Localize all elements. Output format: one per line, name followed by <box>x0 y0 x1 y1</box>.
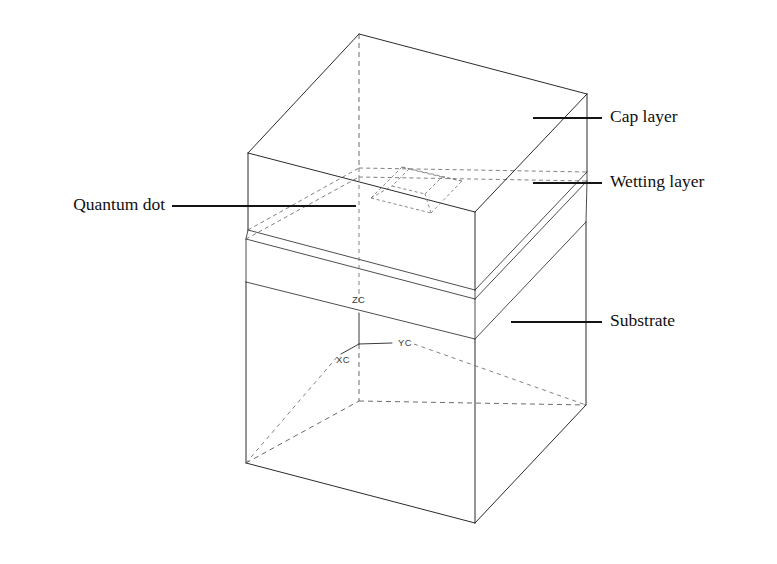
callout-labels: Cap layer Wetting layer Substrate Quantu… <box>73 106 704 330</box>
quantum-dot-shape <box>371 167 462 213</box>
axis-label-z: ZC <box>352 294 365 305</box>
label-wetting-layer: Wetting layer <box>610 171 704 191</box>
label-cap-layer: Cap layer <box>610 106 678 126</box>
coordinate-axes: ZC YC XC <box>246 177 586 463</box>
heterostructure-illustration: ZC YC XC Cap layer Wetting layer Substra… <box>0 0 777 564</box>
diagram-canvas: ZC YC XC Cap layer Wetting layer Substra… <box>0 0 777 564</box>
substrate-block <box>246 222 586 523</box>
label-substrate: Substrate <box>610 310 675 330</box>
cap-layer-block <box>248 34 587 290</box>
leader-lines <box>172 118 602 322</box>
axis-label-x: XC <box>336 354 350 365</box>
label-quantum-dot: Quantum dot <box>73 194 165 214</box>
wetting-layer-slab <box>246 168 587 339</box>
axis-label-y: YC <box>398 337 412 348</box>
